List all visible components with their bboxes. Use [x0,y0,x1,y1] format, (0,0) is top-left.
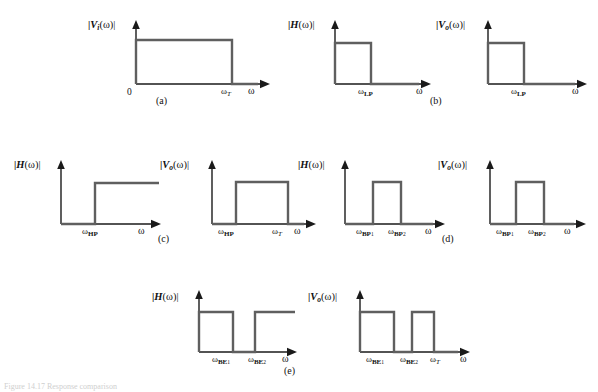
y-axis-label: |H(ω)| [152,292,179,303]
tick-omega-BP2: ωBP2 [528,227,546,238]
tick-omega-T: ωT [221,87,231,98]
panel-letter-b: (b) [430,96,442,106]
x-axis-label: ω [416,86,423,96]
x-axis-label: ω [564,226,571,236]
panel-letter-c: (c) [158,234,169,244]
plot-b-Vo-svg [482,18,598,90]
tick-omega-BP1: ωBP1 [356,227,374,238]
panel-letter-a: (a) [156,96,167,106]
y-axis-label: |H(ω)| [288,20,315,31]
x-axis-label: ω [138,226,145,236]
plot-b-H-svg [329,18,441,90]
tick-omega-HP: ωHP [218,227,234,238]
x-axis-label: ω [282,354,289,364]
tick-omega-BE2: ωBE2 [248,355,266,366]
tick-omega-T: ωT [272,227,282,238]
origin-label: 0 [127,88,132,98]
panel-letter-d: (d) [442,234,454,244]
tick-omega-LP: ωLP [511,87,526,98]
tick-omega-BE1: ωBE1 [212,355,230,366]
tick-omega-LP: ωLP [358,87,373,98]
plot-a-svg [130,18,280,90]
plot-c-H-svg [55,158,175,230]
tick-omega-T: ωT [430,355,440,366]
panel-letter-e: (e) [284,366,295,376]
plot-d-Vo-svg [484,158,598,230]
tick-omega-BP2: ωBP2 [388,227,406,238]
figure-caption: Figure 14.17 Response comparison [4,382,117,391]
plot-e-H-svg [193,290,318,360]
x-axis-label: ω [425,226,432,236]
tick-omega-BE1: ωBE1 [366,355,384,366]
tick-omega-BE2: ωBE2 [400,355,418,366]
y-axis-label: |Vo(ω)| [438,160,467,171]
y-axis-label: |H(ω)| [298,160,325,171]
x-axis-label: ω [248,86,255,96]
tick-omega-BP1: ωBP1 [496,227,514,238]
plot-e-Vo-svg [354,290,489,360]
x-axis-label: ω [460,354,467,364]
tick-omega-HP: ωHP [82,227,98,238]
y-axis-label: |Vo(ω)| [160,160,189,171]
y-axis-label: |H(ω)| [14,160,41,171]
x-axis-label: ω [572,86,579,96]
y-axis-label: |Vo(ω)| [436,20,465,31]
filter-response-figure: |Vi(ω)| 0 ωT ω (a) |H(ω)| [0,0,598,392]
y-axis-label: |Vi(ω)| [88,20,115,31]
x-axis-label: ω [294,226,301,236]
y-axis-label: |Vo(ω)| [308,292,337,303]
